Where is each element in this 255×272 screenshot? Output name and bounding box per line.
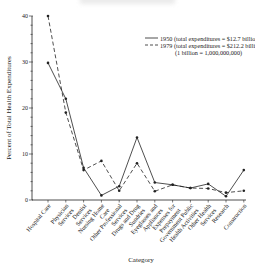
data-point [225,195,228,198]
svg-text:Hospital Care: Hospital Care [24,202,52,233]
data-point [82,167,85,170]
category-labels: Hospital CarePhysicianServicesDentistSer… [24,201,247,248]
data-point [100,160,103,163]
y-tick-label: 20 [22,105,28,111]
y-tick-label: 10 [22,151,28,157]
data-point [207,183,210,186]
data-point [65,111,68,114]
legend-note: (1 billion = 1,000,000,000) [175,49,242,57]
y-axis-label: Percent of Total Health Expenditures [5,56,13,160]
data-point [136,162,139,165]
data-point [118,185,121,188]
data-point [47,62,50,65]
data-point [47,15,50,18]
y-tick-label: 30 [22,59,28,65]
data-point [118,190,121,193]
data-point [207,187,210,190]
data-point [243,190,246,193]
line-chart: 010203040 Hospital CarePhysicianServices… [0,0,255,272]
y-tick-label: 0 [25,197,28,203]
data-point [82,169,85,172]
data-point [171,184,174,187]
data-point [100,194,103,197]
series-line-1950 [48,63,244,196]
y-tick-label: 40 [22,13,28,19]
legend: 1950 (total expenditures = $12.7 billion… [145,35,255,58]
data-point [243,169,246,172]
category-label: Hospital Care [24,202,52,233]
data-point [65,98,68,101]
data-point [136,136,139,139]
data-point [189,187,192,190]
data-point [154,181,157,184]
data-point [154,190,157,193]
x-axis-label: Category [128,256,154,264]
data-point [225,191,228,194]
